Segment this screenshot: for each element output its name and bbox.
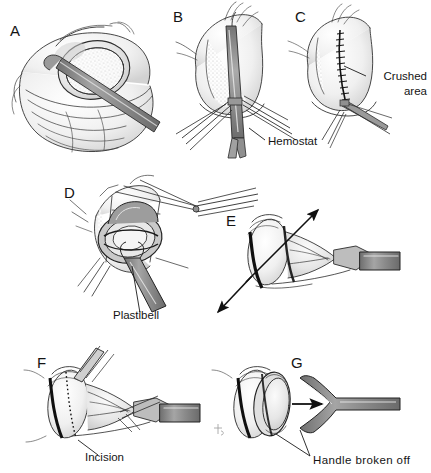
label-handle-broken-off: Handle broken off [313,454,411,466]
panel-letter-f: F [37,354,46,371]
label-crushed-area-line2: area [404,85,428,97]
label-hemostat: Hemostat [268,135,318,147]
label-incision: Incision [85,451,124,463]
panel-letter-d: D [64,184,75,201]
label-plastibell: Plastibell [113,309,159,321]
plastibell-procedure-figure: A [0,0,431,473]
panel-letter-e: E [226,212,236,229]
panel-letter-b: B [173,8,183,25]
panel-letter-c: C [295,8,306,25]
label-crushed-area-line1: Crushed [384,70,427,82]
panel-letter-a: A [10,22,20,39]
panel-letter-g: G [291,354,303,371]
